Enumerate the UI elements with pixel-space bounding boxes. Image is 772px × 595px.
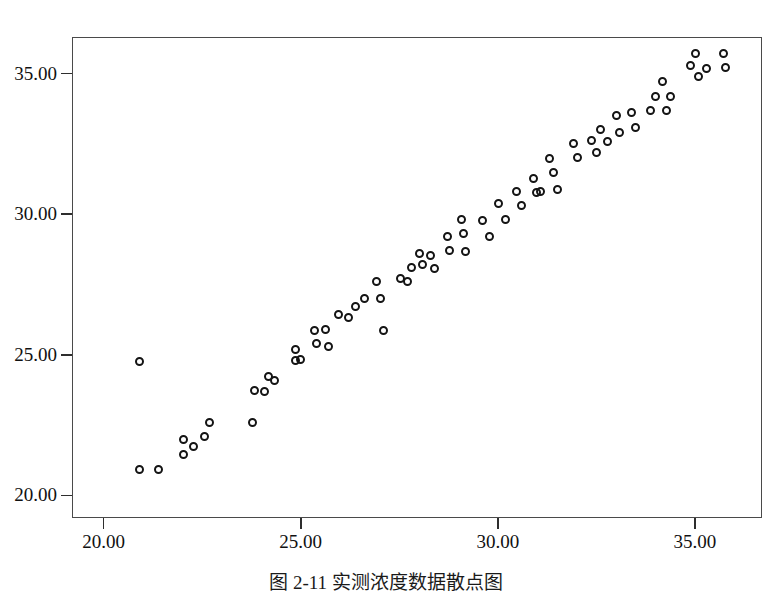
scatter-point bbox=[501, 215, 510, 224]
scatter-point bbox=[646, 106, 655, 115]
scatter-point bbox=[478, 216, 487, 225]
scatter-point bbox=[549, 168, 558, 177]
scatter-point bbox=[615, 128, 624, 137]
scatter-point bbox=[587, 136, 596, 145]
x-axis-tick bbox=[694, 518, 696, 529]
scatter-point bbox=[702, 64, 711, 73]
x-axis-tick bbox=[497, 518, 499, 529]
scatter-point bbox=[603, 137, 612, 146]
scatter-point bbox=[719, 49, 728, 58]
scatter-point bbox=[312, 339, 321, 348]
scatter-point bbox=[135, 357, 144, 366]
scatter-point bbox=[651, 92, 660, 101]
scatter-point bbox=[592, 148, 601, 157]
scatter-point bbox=[553, 185, 562, 194]
scatter-point bbox=[443, 232, 452, 241]
scatter-point bbox=[529, 174, 538, 183]
x-axis-tick bbox=[103, 518, 105, 529]
scatter-point bbox=[415, 249, 424, 258]
scatter-point bbox=[485, 232, 494, 241]
scatter-point bbox=[691, 49, 700, 58]
y-axis-tick-label: 25.00 bbox=[0, 344, 57, 366]
scatter-point bbox=[627, 108, 636, 117]
scatter-point bbox=[135, 465, 144, 474]
scatter-point bbox=[154, 465, 163, 474]
scatter-point bbox=[666, 92, 675, 101]
scatter-point bbox=[324, 342, 333, 351]
scatter-point bbox=[270, 376, 279, 385]
scatter-point bbox=[200, 432, 209, 441]
scatter-point bbox=[179, 435, 188, 444]
scatter-point bbox=[351, 302, 360, 311]
scatter-point bbox=[407, 263, 416, 272]
scatter-point bbox=[310, 326, 319, 335]
scatter-point bbox=[179, 450, 188, 459]
scatter-point bbox=[459, 229, 468, 238]
x-axis-tick-label: 35.00 bbox=[640, 531, 750, 553]
scatter-point bbox=[403, 277, 412, 286]
scatter-point bbox=[658, 77, 667, 86]
x-axis-tick bbox=[300, 518, 302, 529]
scatter-point bbox=[296, 355, 305, 364]
y-axis-tick bbox=[61, 73, 72, 75]
scatter-point bbox=[379, 326, 388, 335]
scatter-point bbox=[426, 251, 435, 260]
scatter-point bbox=[612, 111, 621, 120]
scatter-point bbox=[662, 106, 671, 115]
scatter-point bbox=[418, 260, 427, 269]
scatter-point bbox=[545, 154, 554, 163]
scatter-point bbox=[596, 125, 605, 134]
scatter-point bbox=[360, 294, 369, 303]
y-axis-tick-label: 30.00 bbox=[0, 203, 57, 225]
scatter-point bbox=[321, 325, 330, 334]
y-axis-tick-label: 35.00 bbox=[0, 63, 57, 85]
scatter-point bbox=[445, 246, 454, 255]
x-axis-tick-label: 20.00 bbox=[49, 531, 159, 553]
y-axis-tick bbox=[61, 495, 72, 497]
y-axis-tick-label: 20.00 bbox=[0, 484, 57, 506]
x-axis-tick-label: 25.00 bbox=[246, 531, 356, 553]
scatter-point bbox=[205, 418, 214, 427]
scatter-point bbox=[461, 247, 470, 256]
y-axis-tick bbox=[61, 354, 72, 356]
scatter-point bbox=[430, 264, 439, 273]
scatter-points-layer bbox=[72, 37, 762, 518]
scatter-point bbox=[334, 310, 343, 319]
scatter-point bbox=[573, 153, 582, 162]
scatter-point bbox=[291, 345, 300, 354]
scatter-point bbox=[631, 123, 640, 132]
scatter-point bbox=[248, 418, 257, 427]
scatter-point bbox=[569, 139, 578, 148]
scatter-point bbox=[189, 442, 198, 451]
scatter-point bbox=[372, 277, 381, 286]
figure-caption: 图 2-11 实测浓度数据散点图 bbox=[0, 571, 772, 595]
scatter-point bbox=[250, 386, 259, 395]
scatter-point bbox=[517, 201, 526, 210]
scatter-point bbox=[457, 215, 466, 224]
scatter-point bbox=[494, 199, 503, 208]
scatter-point bbox=[694, 72, 703, 81]
scatter-point bbox=[260, 387, 269, 396]
x-axis-tick-label: 30.00 bbox=[443, 531, 553, 553]
scatter-point bbox=[376, 294, 385, 303]
scatter-point bbox=[721, 63, 730, 72]
scatter-point bbox=[536, 187, 545, 196]
scatter-point bbox=[512, 187, 521, 196]
scatter-point bbox=[686, 61, 695, 70]
scatter-point bbox=[344, 313, 353, 322]
y-axis-tick bbox=[61, 213, 72, 215]
